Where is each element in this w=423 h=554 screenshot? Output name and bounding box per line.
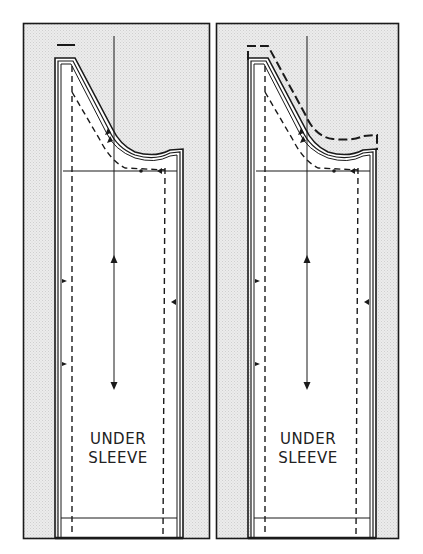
right-panel-label: UNDER SLEEVE — [258, 430, 358, 468]
left-label-line1: UNDER — [68, 430, 168, 449]
right-label-line1: UNDER — [258, 430, 358, 449]
left-label-line2: SLEEVE — [68, 449, 168, 468]
under-sleeve-diagram — [0, 0, 423, 554]
right-label-line2: SLEEVE — [258, 449, 358, 468]
left-panel-label: UNDER SLEEVE — [68, 430, 168, 468]
